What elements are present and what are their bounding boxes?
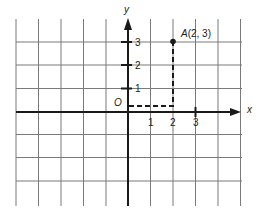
- x-tick-label-3: 3: [193, 117, 199, 128]
- coordinate-plane: y x O 3 2 1 1 2 3 A(2, 3): [0, 0, 263, 216]
- x-tick-label-2: 2: [170, 117, 176, 128]
- y-axis-label: y: [123, 4, 130, 15]
- y-tick-label-2: 2: [135, 60, 141, 71]
- y-axis-arrow-icon: [124, 18, 132, 30]
- y-tick-label-1: 1: [135, 83, 141, 94]
- y-tick-label-3: 3: [135, 37, 141, 48]
- origin-label: O: [114, 97, 122, 108]
- x-tick-label-1: 1: [148, 117, 154, 128]
- point-a: [170, 39, 176, 45]
- point-a-label: A(2, 3): [180, 28, 211, 39]
- x-axis-label: x: [246, 104, 253, 115]
- x-axis-arrow-icon: [230, 108, 241, 116]
